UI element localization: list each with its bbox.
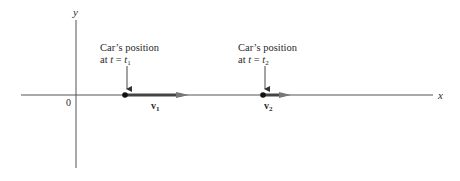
position-2-group: Car’s position at t = t2 v2 [238, 42, 298, 113]
caption-prefix: at [238, 54, 248, 65]
velocity-1-label: v1 [151, 100, 160, 113]
position-2-caption-line1: Car’s position [238, 42, 298, 53]
caption-subscript: 2 [265, 59, 269, 67]
vector-subscript: 1 [156, 105, 160, 113]
caption-eq: = [113, 54, 124, 65]
velocity-vector-1-arrowhead-icon [176, 92, 189, 98]
position-1-caption-line1: Car’s position [100, 42, 160, 53]
caption-subscript: 1 [127, 59, 131, 67]
origin-label: 0 [66, 97, 71, 108]
velocity-diagram: x y 0 Car’s position at t = t1 v1 Car’s … [0, 0, 460, 181]
x-axis-label: x [437, 89, 443, 101]
velocity-2-label: v2 [264, 100, 273, 113]
velocity-vector-2-arrowhead-icon [279, 92, 291, 98]
caption-eq: = [251, 54, 262, 65]
caption-prefix: at [100, 54, 110, 65]
position-2-caption-line2: at t = t2 [238, 54, 269, 67]
y-axis-label: y [72, 6, 78, 18]
position-1-group: Car’s position at t = t1 v1 [100, 42, 189, 113]
position-2-dot [260, 92, 266, 98]
vector-subscript: 2 [269, 105, 273, 113]
position-1-caption-line2: at t = t1 [100, 54, 131, 67]
position-1-dot [122, 92, 128, 98]
